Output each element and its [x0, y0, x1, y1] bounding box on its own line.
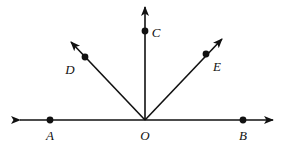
geometry-figure: A B C D E O: [0, 0, 294, 151]
point-label-e: E: [213, 60, 221, 73]
ray-od: [71, 42, 145, 120]
point-dot-a: [47, 117, 54, 124]
point-dot-c: [142, 28, 149, 35]
point-label-d: D: [65, 63, 74, 76]
point-dot-d: [82, 54, 89, 61]
point-label-o: O: [140, 129, 149, 142]
point-label-b: B: [239, 129, 247, 142]
point-dot-b: [240, 117, 247, 124]
ray-oe: [145, 39, 222, 120]
ray-oe-segment: [145, 39, 222, 120]
point-dot-e: [203, 51, 210, 58]
ray-od-segment: [71, 42, 145, 120]
point-label-c: C: [152, 26, 161, 39]
point-label-a: A: [46, 129, 54, 142]
